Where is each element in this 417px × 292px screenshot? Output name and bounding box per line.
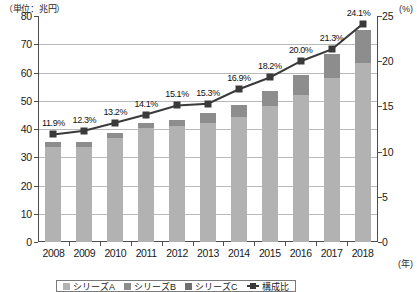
x-axis-tick-mark xyxy=(193,242,194,246)
bar xyxy=(76,142,92,242)
legend-item: 構成比 xyxy=(247,280,289,292)
y2-axis-tick-label: 0 xyxy=(382,236,412,248)
x-axis-tick-label: 2013 xyxy=(197,247,219,259)
legend-color-swatch-icon xyxy=(63,283,70,290)
x-axis-tick-label: 2011 xyxy=(136,247,157,259)
legend-item: シリーズB xyxy=(124,280,176,292)
bar-segment-lower xyxy=(138,128,154,242)
x-axis-tick-mark xyxy=(223,242,224,246)
bar-segment-lower xyxy=(45,147,61,242)
x-axis-tick-mark xyxy=(131,242,132,246)
legend-label: シリーズA xyxy=(73,280,115,292)
bar xyxy=(262,91,278,242)
x-axis-tick-label: 2012 xyxy=(166,247,188,259)
y2-axis-tick-mark xyxy=(378,106,382,107)
legend-color-swatch-icon xyxy=(185,283,192,290)
x-axis-tick-label: 2015 xyxy=(259,247,281,259)
y-axis-tick-label: 30 xyxy=(4,151,32,163)
legend-color-swatch-icon xyxy=(124,283,131,290)
x-axis-tick-mark xyxy=(285,242,286,246)
legend-label: シリーズB xyxy=(134,280,176,292)
x-axis-tick-label: 2010 xyxy=(104,247,126,259)
bar xyxy=(45,142,61,242)
legend-label: シリーズC xyxy=(195,280,238,292)
x-axis-tick-mark xyxy=(69,242,70,246)
y2-axis-tick-label: 25 xyxy=(382,10,412,22)
y-axis-tick-mark xyxy=(34,242,38,243)
y-axis-tick-mark xyxy=(34,214,38,215)
bar-segment-upper xyxy=(293,75,309,95)
y-axis-tick-mark xyxy=(34,157,38,158)
bar-segment-lower xyxy=(107,138,123,242)
legend-item: シリーズC xyxy=(185,280,238,292)
bar xyxy=(355,30,371,242)
bar-segment-upper xyxy=(355,30,371,62)
y-axis-tick-label: 50 xyxy=(4,95,32,107)
chart-legend: シリーズAシリーズBシリーズC構成比 xyxy=(56,280,296,292)
y2-axis-tick-mark xyxy=(378,16,382,17)
y-axis-tick-mark xyxy=(34,16,38,17)
x-axis-tick-mark xyxy=(254,242,255,246)
bar-segment-lower xyxy=(293,95,309,242)
bar-segment-lower xyxy=(169,126,185,242)
y-axis-tick-label: 20 xyxy=(4,180,32,192)
y-axis-tick-mark xyxy=(34,101,38,102)
bar-segment-lower xyxy=(200,123,216,242)
bar-segment-upper xyxy=(324,54,340,78)
x-axis-tick-label: 2016 xyxy=(290,247,312,259)
x-axis-unit-label: (年) xyxy=(398,257,413,270)
y-axis-tick-label: 40 xyxy=(4,123,32,135)
y2-axis-tick-mark xyxy=(378,197,382,198)
x-axis-tick-label: 2014 xyxy=(228,247,250,259)
y-axis-tick-mark xyxy=(34,129,38,130)
bar xyxy=(231,105,247,242)
bar-segment-lower xyxy=(324,78,340,242)
legend-line-swatch-icon xyxy=(247,285,259,287)
bar-segment-upper xyxy=(231,105,247,117)
x-axis-tick-label: 2018 xyxy=(352,247,374,259)
x-axis-tick-label: 2017 xyxy=(321,247,343,259)
bar xyxy=(107,133,123,242)
y2-axis-tick-mark xyxy=(378,152,382,153)
x-axis-tick-label: 2008 xyxy=(43,247,65,259)
y-axis-tick-mark xyxy=(34,44,38,45)
y-axis-tick-label: 0 xyxy=(4,236,32,248)
y-axis-tick-mark xyxy=(34,186,38,187)
bar-segment-lower xyxy=(355,63,371,242)
y2-axis-tick-mark xyxy=(378,61,382,62)
bar xyxy=(200,113,216,242)
bar xyxy=(324,54,340,242)
y2-axis-tick-label: 10 xyxy=(382,146,412,158)
x-axis-tick-mark xyxy=(100,242,101,246)
bar xyxy=(138,123,154,242)
y2-axis-tick-label: 5 xyxy=(382,191,412,203)
y2-axis-tick-label: 20 xyxy=(382,55,412,67)
bar xyxy=(293,75,309,242)
y2-axis-tick-mark xyxy=(378,242,382,243)
x-axis-tick-mark xyxy=(162,242,163,246)
legend-item: シリーズA xyxy=(63,280,115,292)
bar-segment-upper xyxy=(200,113,216,122)
y-axis-tick-mark xyxy=(34,73,38,74)
y-axis-tick-label: 70 xyxy=(4,38,32,50)
bar-segment-lower xyxy=(262,106,278,242)
y-axis-tick-label: 80 xyxy=(4,10,32,22)
y-axis-tick-label: 10 xyxy=(4,208,32,220)
x-axis-tick-label: 2009 xyxy=(73,247,95,259)
bar xyxy=(169,120,185,242)
y-axis-tick-label: 60 xyxy=(4,67,32,79)
x-axis-tick-mark xyxy=(347,242,348,246)
x-axis-tick-mark xyxy=(316,242,317,246)
y2-axis-tick-label: 15 xyxy=(382,100,412,112)
legend-label: 構成比 xyxy=(262,280,289,292)
gridline xyxy=(39,44,377,45)
bar-segment-upper xyxy=(262,91,278,107)
bar-segment-lower xyxy=(231,117,247,242)
bar-segment-lower xyxy=(76,147,92,242)
